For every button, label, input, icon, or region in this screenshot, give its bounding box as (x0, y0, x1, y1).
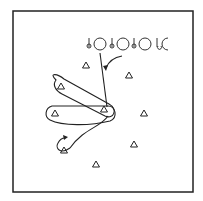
cone-icon (131, 141, 138, 147)
drill-diagram (0, 0, 203, 201)
turn-loop (57, 138, 70, 151)
cones (52, 62, 148, 167)
cone-icon (83, 62, 90, 68)
player-partial-circle (162, 38, 168, 50)
entry-arrow (106, 56, 122, 68)
player-circle (139, 38, 151, 50)
player-line (87, 38, 168, 50)
exit-path (70, 116, 108, 148)
loop-upper (53, 75, 114, 117)
player-circle (94, 38, 106, 50)
cone-icon (126, 72, 133, 78)
cone-icon (52, 110, 59, 116)
cone-icon (58, 83, 65, 89)
cone-icon (93, 161, 100, 167)
player-circle (117, 38, 129, 50)
cone-icon (141, 110, 148, 116)
run-path (100, 53, 107, 107)
turn-arrowhead-icon (63, 135, 68, 140)
arrowhead-icon (103, 65, 108, 71)
